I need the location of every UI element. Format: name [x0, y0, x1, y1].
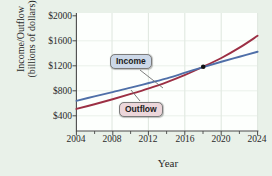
callout-income: Income: [110, 54, 152, 69]
chart-figure: Income/Outflow (billions of dollars) $20…: [0, 0, 272, 176]
intersection-point-marker: [201, 64, 206, 69]
plot-background: [76, 13, 258, 131]
plot-area: [0, 0, 272, 176]
callout-outflow: Outflow: [119, 102, 163, 117]
